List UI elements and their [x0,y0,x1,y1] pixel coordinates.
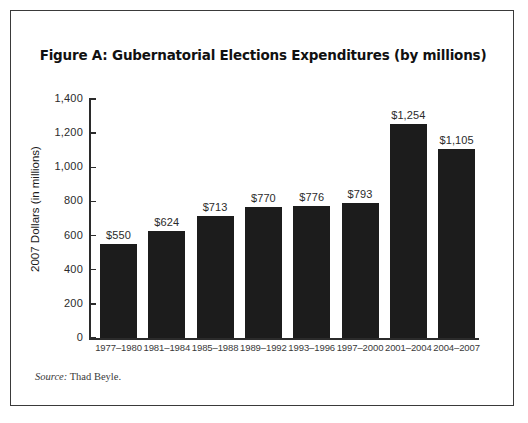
y-tick-mark [89,337,96,338]
y-tick-mark [89,98,96,99]
bar[interactable] [245,207,282,338]
bar[interactable] [148,231,185,338]
figure-frame: Figure A: Gubernatorial Elections Expend… [10,10,514,406]
y-axis-label: 2007 Dollars (in millions) [29,109,41,309]
y-tick-label: 1,400 [35,92,83,104]
source-label: Source: [35,371,67,382]
page-title: Figure A: Gubernatorial Elections Expend… [11,47,514,63]
x-tick-label: 1981–1984 [142,342,191,353]
y-tick-mark [89,132,96,133]
x-tick-label: 1985–1988 [191,342,240,353]
bar-value-label: $550 [89,229,148,241]
bar[interactable] [342,203,379,338]
y-tick-mark [89,303,96,304]
bar[interactable] [390,124,427,338]
y-tick-mark [89,167,96,168]
y-tick-label: 600 [35,229,83,241]
x-tick-label: 2004–2007 [432,342,481,353]
bar[interactable] [197,216,234,338]
x-tick-label: 1993–1996 [287,342,336,353]
bar[interactable] [293,206,330,338]
y-tick-label: 0 [35,331,83,343]
source-value: Thad Beyle. [67,371,121,382]
bar-value-label: $624 [137,216,196,228]
y-tick-mark [89,201,96,202]
bar-value-label: $1,254 [379,109,438,121]
x-tick-label: 1977–1980 [94,342,143,353]
x-axis-line [89,338,479,340]
y-tick-label: 200 [35,297,83,309]
bar[interactable] [438,149,475,338]
x-tick-label: 2001–2004 [384,342,433,353]
y-tick-label: 1,000 [35,160,83,172]
y-tick-label: 1,200 [35,126,83,138]
bar-value-label: $793 [331,188,390,200]
bar[interactable] [100,244,137,338]
y-tick-mark [89,269,96,270]
y-tick-label: 400 [35,263,83,275]
x-tick-label: 1989–1992 [239,342,288,353]
source-note: Source: Thad Beyle. [35,371,121,382]
y-tick-label: 800 [35,194,83,206]
bar-value-label: $1,105 [427,134,486,146]
x-tick-label: 1997–2000 [336,342,385,353]
